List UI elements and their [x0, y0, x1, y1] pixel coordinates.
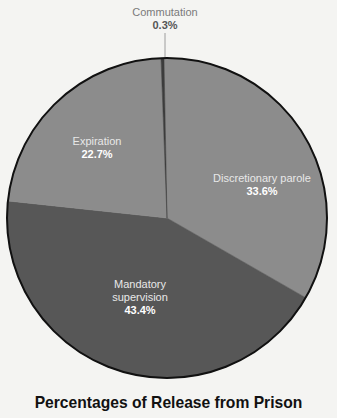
label-commutation: Commutation 0.3% [132, 6, 197, 32]
label-mandatory-supervision: Mandatory supervision 43.4% [112, 278, 168, 317]
label-discretionary-pct: 33.6% [213, 185, 311, 198]
label-mandatory-pct: 43.4% [112, 304, 168, 317]
label-commutation-name: Commutation [132, 6, 197, 18]
label-mandatory-name-2: supervision [112, 291, 168, 304]
label-discretionary-parole: Discretionary parole 33.6% [213, 172, 311, 198]
label-mandatory-name-1: Mandatory [112, 278, 168, 291]
pie-slices [7, 58, 327, 378]
pie-chart [0, 0, 337, 418]
chart-title: Percentages of Release from Prison [13, 393, 323, 413]
label-commutation-pct: 0.3% [132, 19, 197, 32]
label-expiration-name: Expiration [73, 135, 122, 147]
label-discretionary-name: Discretionary parole [213, 172, 311, 184]
label-expiration-pct: 22.7% [73, 148, 122, 161]
label-expiration: Expiration 22.7% [73, 135, 122, 161]
